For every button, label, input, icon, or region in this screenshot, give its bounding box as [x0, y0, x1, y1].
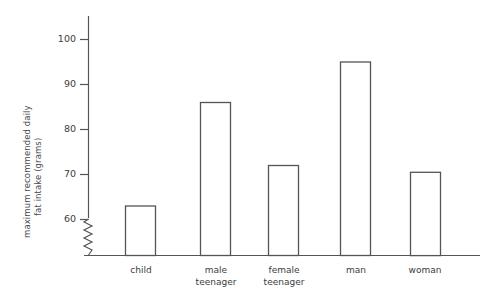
- bar-chart: maximum recommended daily fat intake (gr…: [0, 0, 502, 298]
- bar-female-teenager: [269, 166, 299, 256]
- bar-woman: [411, 172, 441, 255]
- x-category-label-female-teenager: female teenager: [252, 264, 316, 288]
- x-category-label-woman: woman: [394, 264, 456, 276]
- bar-man: [341, 62, 371, 256]
- bar-child: [126, 206, 156, 256]
- chart-plot-area: [0, 0, 502, 298]
- bar-male-teenager: [201, 103, 231, 256]
- x-category-label-child: child: [110, 264, 172, 276]
- x-category-label-man: man: [325, 264, 387, 276]
- x-category-label-male-teenager: male teenager: [185, 264, 247, 288]
- y-axis-break-zigzag: [84, 219, 92, 255]
